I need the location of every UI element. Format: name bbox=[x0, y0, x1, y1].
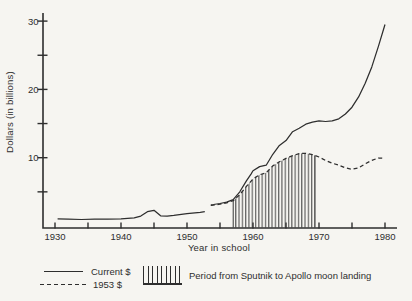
axes bbox=[43, 13, 397, 228]
legend-item-sputnik-apollo-period: Period from Sputnik to Apollo moon landi… bbox=[143, 266, 371, 285]
x-tick-label: 1950 bbox=[176, 231, 197, 242]
x-tick-label: 1940 bbox=[110, 231, 131, 242]
legend-item-1953-dollars: 1953 $ bbox=[40, 279, 122, 290]
y-tick-label: 20 bbox=[28, 84, 39, 95]
x-axis-title: Year in school bbox=[139, 242, 299, 253]
x-tick-label: 1970 bbox=[308, 231, 329, 242]
x-tick-label: 1960 bbox=[242, 231, 263, 242]
dashed-line-swatch-icon bbox=[40, 284, 86, 286]
figure: 102030193019401950196019701980 Year in s… bbox=[0, 0, 412, 301]
legend-label: 1953 $ bbox=[93, 279, 122, 290]
x-tick-label: 1930 bbox=[44, 231, 65, 242]
y-axis-title: Dollars (in billions) bbox=[4, 47, 16, 177]
legend-item-current-dollars: Current $ bbox=[44, 266, 131, 277]
solid-line-swatch-icon bbox=[44, 271, 83, 272]
legend-label: Current $ bbox=[91, 266, 131, 277]
chart-canvas: 102030193019401950196019701980 bbox=[0, 0, 412, 301]
series-current-dollars bbox=[58, 210, 205, 219]
y-tick-label: 30 bbox=[28, 16, 39, 27]
legend-label: Period from Sputnik to Apollo moon landi… bbox=[189, 270, 371, 285]
y-tick-label: 10 bbox=[28, 152, 39, 163]
vertical-hatch-swatch-icon bbox=[143, 266, 182, 285]
x-tick-label: 1980 bbox=[374, 231, 395, 242]
